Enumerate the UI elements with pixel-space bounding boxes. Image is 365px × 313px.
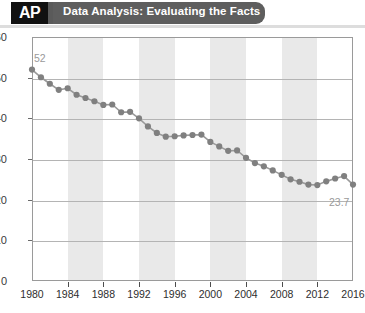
shaded-band <box>210 38 246 280</box>
shaded-band <box>68 38 104 280</box>
ap-logo-label: AP <box>19 5 40 21</box>
x-axis-tick-label: 2012 <box>297 289 337 300</box>
gridline <box>33 119 352 120</box>
x-axis-tick-label: 1992 <box>119 289 159 300</box>
x-axis-tick-label: 2004 <box>226 289 266 300</box>
y-axis-tick-label: 10 <box>0 235 7 246</box>
gridline <box>33 201 352 202</box>
x-axis-tick-label: 2000 <box>190 289 230 300</box>
y-axis-tick-label: 50 <box>0 73 7 84</box>
plot-area <box>32 37 353 281</box>
x-axis-tick-mark <box>246 282 247 287</box>
gridline <box>33 160 352 161</box>
x-axis-tick-label: 2016 <box>333 289 365 300</box>
x-axis-tick-label: 1980 <box>12 289 52 300</box>
x-axis-tick-label: 1984 <box>48 289 88 300</box>
y-axis-tick-label: 0 <box>0 276 7 287</box>
x-axis-tick-mark <box>175 282 176 287</box>
y-axis-tick-label: 40 <box>0 113 7 124</box>
y-axis-tick-mark <box>28 78 32 79</box>
y-axis-tick-mark <box>28 240 32 241</box>
x-axis-tick-mark <box>68 282 69 287</box>
x-axis-tick-label: 2008 <box>262 289 302 300</box>
x-axis-tick-label: 1996 <box>155 289 195 300</box>
y-axis-tick-label: 20 <box>0 195 7 206</box>
shaded-band <box>139 38 175 280</box>
gridline <box>33 79 352 80</box>
page-title: Data Analysis: Evaluating the Facts <box>63 5 260 17</box>
chart-container: 6050403020100 19801984198819921996200020… <box>0 28 365 313</box>
data-point-label: 52 <box>34 53 46 64</box>
y-axis-tick-mark <box>28 200 32 201</box>
x-axis-tick-mark <box>103 282 104 287</box>
ap-logo-icon: AP <box>11 2 48 24</box>
x-axis-tick-label: 1988 <box>83 289 123 300</box>
y-axis-tick-label: 30 <box>0 154 7 165</box>
gridline <box>33 241 352 242</box>
x-axis-tick-mark <box>210 282 211 287</box>
header-banner: AP Data Analysis: Evaluating the Facts <box>0 0 365 28</box>
x-axis-tick-mark <box>282 282 283 287</box>
data-point-label: 23.7 <box>329 197 349 208</box>
y-axis-tick-label: 60 <box>0 32 7 43</box>
y-axis-tick-mark <box>28 118 32 119</box>
shaded-band <box>282 38 318 280</box>
y-axis-tick-mark <box>28 159 32 160</box>
x-axis-tick-mark <box>139 282 140 287</box>
x-axis-tick-mark <box>317 282 318 287</box>
